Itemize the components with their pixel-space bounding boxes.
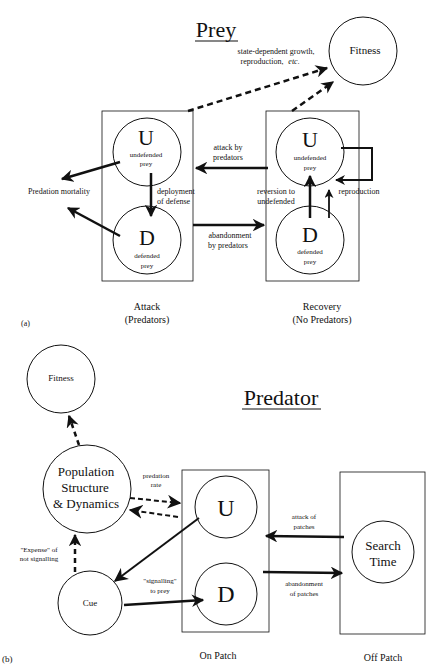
attack-caption-1: Attack xyxy=(134,301,161,312)
fitness-note-etc: etc. xyxy=(288,57,299,66)
predation-rate-label-1: predation xyxy=(143,472,170,480)
attack-patches-label-1: attack of xyxy=(292,513,317,521)
panel-a-label: (a) xyxy=(21,319,30,328)
prey-fitness-label: Fitness xyxy=(349,44,380,56)
recovery-u-text-2: prey xyxy=(304,164,317,172)
off-patch-caption: Off Patch xyxy=(364,652,402,663)
reversion-label-1: reversion to xyxy=(257,187,295,196)
predation-rate-label-2: rate xyxy=(151,481,162,489)
d-mortality-arrow xyxy=(68,208,120,236)
recovery-to-fitness-arrow xyxy=(292,82,333,111)
recovery-d-text-2: prey xyxy=(304,258,317,266)
expense-label-1: "Expense" of xyxy=(20,546,58,554)
signalling-label-1: "signalling" xyxy=(143,577,176,585)
recovery-d-text-1: defended xyxy=(297,248,323,256)
attack-by-label-1: attack by xyxy=(213,143,242,152)
predator-title: Predator xyxy=(244,385,319,410)
prey-title: Prey xyxy=(196,17,236,42)
attack-u-text-1: undefended xyxy=(130,151,163,159)
attack-u-letter: U xyxy=(138,125,154,150)
recovery-u-text-1: undefended xyxy=(294,154,327,162)
panel-b-label: (b) xyxy=(2,654,13,664)
attack-u-text-2: prey xyxy=(140,160,153,168)
population-to-fitness-arrow xyxy=(69,416,79,445)
fitness-note-2: reproduction, xyxy=(241,57,284,66)
signalling-label-2: to prey xyxy=(150,587,170,595)
attack-d-text-1: defended xyxy=(134,252,160,260)
abandonment-label-1: abandonment xyxy=(208,231,252,240)
abandon-patches-label-1: abandonment xyxy=(285,580,323,588)
attack-d-letter: D xyxy=(139,225,155,250)
off-patch-box xyxy=(340,472,425,634)
u-to-cue-arrow xyxy=(115,518,199,581)
deployment-label-2: of defense xyxy=(157,197,191,206)
attack-caption-2: (Predators) xyxy=(125,314,169,326)
abandonment-of-patches-arrow xyxy=(263,572,342,573)
reproduction-label: reproduction xyxy=(339,187,380,196)
panel-b-predator: Predator Fitness Population Structure & … xyxy=(2,345,425,664)
u-mortality-arrow xyxy=(62,162,120,179)
predation-mortality-label: Predation mortality xyxy=(28,187,90,196)
attack-to-fitness-arrow xyxy=(188,68,327,111)
cue-label: Cue xyxy=(83,598,98,608)
recovery-caption-2: (No Predators) xyxy=(292,314,351,326)
abandonment-label-2: by predators xyxy=(208,241,248,250)
recovery-d-letter: D xyxy=(302,222,318,247)
expense-label-2: not signalling xyxy=(20,555,59,563)
attack-by-label-2: predators xyxy=(213,153,243,162)
attack-of-patches-arrow xyxy=(266,536,344,537)
on-patch-u-letter: U xyxy=(217,495,234,521)
abandon-patches-label-2: of patches xyxy=(290,590,319,598)
on-patch-caption: On Patch xyxy=(200,650,237,661)
deployment-label-1: deployment xyxy=(157,187,196,196)
on-patch-d-letter: D xyxy=(217,581,234,607)
population-label-2: Structure xyxy=(61,480,109,495)
search-label-1: Search xyxy=(365,538,401,553)
recovery-caption-1: Recovery xyxy=(303,301,341,312)
reversion-label-2: undefended xyxy=(257,197,294,206)
predation-rate-out-arrow xyxy=(130,498,180,503)
signalling-arrow xyxy=(124,600,203,605)
fitness-note-1: state-dependent growth, xyxy=(238,47,315,56)
prey-predator-diagram: Prey Fitness state-dependent growth, rep… xyxy=(0,0,440,672)
search-label-2: Time xyxy=(370,554,397,569)
recovery-u-letter: U xyxy=(302,127,318,152)
panel-a-prey: Prey Fitness state-dependent growth, rep… xyxy=(21,17,397,328)
predator-fitness-label: Fitness xyxy=(48,373,74,383)
attack-patches-label-2: patches xyxy=(294,523,315,531)
population-label-1: Population xyxy=(58,464,115,479)
population-label-3: & Dynamics xyxy=(53,496,119,511)
attack-d-text-2: prey xyxy=(141,262,154,270)
predation-rate-in-arrow xyxy=(130,510,178,517)
